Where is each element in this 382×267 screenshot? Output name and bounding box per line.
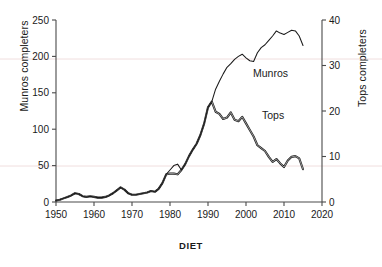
chart-background [0,0,382,267]
svg-text:1980: 1980 [159,209,182,220]
svg-text:50: 50 [38,160,50,171]
svg-text:100: 100 [32,124,49,135]
svg-text:10: 10 [329,151,341,162]
svg-text:2000: 2000 [235,209,258,220]
svg-text:20: 20 [329,106,341,117]
svg-text:1960: 1960 [83,209,106,220]
series-label-tops: Tops [262,109,284,121]
svg-text:0: 0 [329,197,335,208]
y-axis-right-title: Tops completers [356,8,368,128]
svg-text:30: 30 [329,60,341,71]
svg-text:1970: 1970 [121,209,144,220]
svg-text:0: 0 [43,197,49,208]
svg-text:150: 150 [32,87,49,98]
svg-text:2010: 2010 [273,209,296,220]
svg-text:40: 40 [329,15,341,26]
svg-text:200: 200 [32,51,49,62]
svg-text:2020: 2020 [311,209,334,220]
chart-figure: 050100150200250 010203040 19501960197019… [0,0,382,267]
svg-text:250: 250 [32,15,49,26]
y-axis-left-title: Munros completers [18,6,30,126]
line-chart-canvas: 050100150200250 010203040 19501960197019… [0,0,382,267]
svg-text:1990: 1990 [197,209,220,220]
series-label-munros: Munros [253,67,288,79]
figure-caption: DIET [0,240,382,251]
svg-text:1950: 1950 [45,209,68,220]
